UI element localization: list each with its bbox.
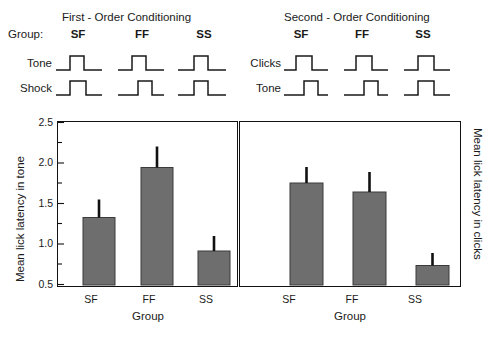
xtick-right-ss: SS xyxy=(397,293,433,305)
group-name-left-ff: FF xyxy=(124,28,160,40)
wave-tone-sf xyxy=(56,56,102,70)
xtick-left-ss: SS xyxy=(188,293,224,305)
ylabel-tick-0.5: 0.5 xyxy=(27,278,53,290)
group-row-label: Group: xyxy=(8,28,43,40)
group-name-right-sf: SF xyxy=(283,28,319,40)
wave-tone-ss xyxy=(178,56,226,70)
group-name-left-ss: SS xyxy=(186,28,222,40)
ylabel-tick-1.5: 1.5 xyxy=(27,197,53,209)
group-name-left-sf: SF xyxy=(60,28,96,40)
bars-second-order xyxy=(240,122,460,286)
panel-title-second-order: Second - Order Conditioning xyxy=(284,11,430,23)
ylabel-tick-2.0: 2.0 xyxy=(27,156,53,168)
x-axis-title-left: Group xyxy=(118,310,178,322)
wave-shock-ff xyxy=(118,81,164,95)
plot-panel-second-order xyxy=(239,121,461,287)
ylabel-tick-2.5: 2.5 xyxy=(27,116,53,128)
ylabel-tick-1.0: 1.0 xyxy=(27,237,53,249)
running-head xyxy=(479,1,493,7)
stimulus-waveforms-second-order xyxy=(282,50,460,102)
wave-clicks-ss xyxy=(404,56,450,70)
bars-first-order xyxy=(58,122,237,286)
xtick-left-sf: SF xyxy=(73,293,109,305)
wave-shock-ss xyxy=(178,81,226,95)
bar-right-ss xyxy=(416,266,449,286)
bar-right-ff xyxy=(353,192,386,285)
bar-right-sf xyxy=(290,183,323,285)
plot-panel-first-order xyxy=(57,121,238,287)
xtick-left-ff: FF xyxy=(131,293,167,305)
bar-left-sf xyxy=(83,218,115,286)
bar-left-ss xyxy=(198,251,230,285)
wave-clicks-ff xyxy=(344,56,388,70)
stimulus-waveforms-first-order xyxy=(54,50,229,102)
wave-tone2-sf xyxy=(284,81,328,95)
stim-label-left-shock: Shock xyxy=(0,82,52,94)
stim-label-left-tone: Tone xyxy=(0,57,52,69)
panel-title-first-order: First - Order Conditioning xyxy=(62,11,191,23)
wave-clicks-sf xyxy=(284,56,328,70)
y-axis-title-left: Mean lick latency in tone xyxy=(14,156,26,282)
wave-shock-sf xyxy=(56,81,102,95)
wave-tone2-ss xyxy=(404,81,450,95)
stim-label-right-clicks: Clicks xyxy=(229,57,281,69)
wave-tone2-ff xyxy=(344,81,388,95)
xtick-right-sf: SF xyxy=(271,293,307,305)
y-axis-title-right: Mean lick latency in clicks xyxy=(472,128,484,260)
xtick-right-ff: FF xyxy=(334,293,370,305)
bar-left-ff xyxy=(141,168,173,286)
wave-tone-ff xyxy=(118,56,164,70)
stim-label-right-tone: Tone xyxy=(229,82,281,94)
group-name-right-ff: FF xyxy=(344,28,380,40)
group-name-right-ss: SS xyxy=(405,28,441,40)
x-axis-title-right: Group xyxy=(320,310,380,322)
figure-container: First - Order Conditioning Second - Orde… xyxy=(0,0,501,342)
